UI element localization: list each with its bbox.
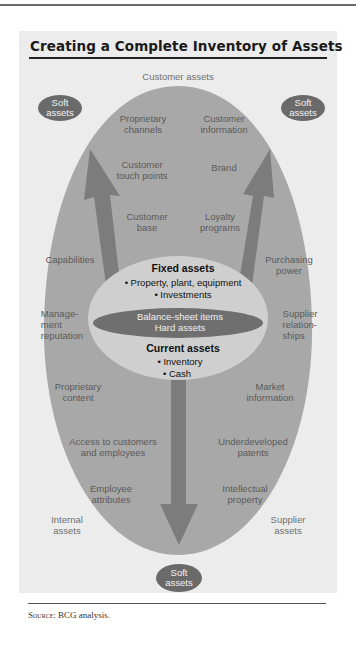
item-customer-touch-points: Customer touch points xyxy=(116,159,167,181)
line: patents xyxy=(218,447,288,458)
item-brand: Brand xyxy=(211,162,236,173)
line: Capabilities xyxy=(45,254,94,265)
line: Loyalty xyxy=(200,211,240,222)
source-rule xyxy=(28,603,326,604)
item-customer-base: Customer base xyxy=(126,211,167,233)
item-supplier-relationships: Supplier relation- ships xyxy=(283,308,318,341)
line: information xyxy=(201,124,248,135)
line: and employees xyxy=(69,447,157,458)
supplier-assets-line1: Supplier xyxy=(271,514,306,525)
line: base xyxy=(126,222,167,233)
line: power xyxy=(265,265,313,276)
supplier-assets-line2: assets xyxy=(271,525,306,536)
item-loyalty-programs: Loyalty programs xyxy=(200,211,240,233)
current-assets-title: Current assets xyxy=(146,342,220,354)
line: ment xyxy=(41,319,83,330)
line: Employee xyxy=(90,483,132,494)
line: relation- xyxy=(283,319,318,330)
line: Brand xyxy=(211,162,236,173)
current-asset-item: • Cash xyxy=(163,368,191,379)
source-text: BCG analysis. xyxy=(58,610,110,620)
source-prefix: Source: xyxy=(28,610,56,620)
line: Proprietary xyxy=(120,113,166,124)
customer-assets-label: Customer assets xyxy=(142,71,213,82)
line: reputation xyxy=(41,330,83,341)
line: information xyxy=(247,392,294,403)
fixed-asset-item: • Investments xyxy=(154,289,211,300)
line: Purchasing xyxy=(265,254,313,265)
line: Intellectual xyxy=(222,483,267,494)
line: property xyxy=(222,494,267,505)
item-capabilities: Capabilities xyxy=(45,254,94,265)
line: Underdeveloped xyxy=(218,436,288,447)
supplier-assets-label: Supplier assets xyxy=(271,514,306,536)
item-proprietary-channels: Proprietary channels xyxy=(120,113,166,135)
line: Customer xyxy=(126,211,167,222)
fixed-assets-title: Fixed assets xyxy=(151,262,214,274)
soft-assets-right-label: Soft assets xyxy=(289,98,316,118)
line: channels xyxy=(120,124,166,135)
item-purchasing-power: Purchasing power xyxy=(265,254,313,276)
item-customer-information: Customer information xyxy=(201,113,248,135)
current-asset-item: • Inventory xyxy=(157,356,202,367)
soft-assets-line2: assets xyxy=(289,108,316,118)
item-access-customers-employees: Access to customers and employees xyxy=(69,436,157,458)
line: Customer xyxy=(116,159,167,170)
soft-assets-line2: assets xyxy=(46,108,73,118)
item-underdeveloped-patents: Underdeveloped patents xyxy=(218,436,288,458)
item-management-reputation: Manage- ment reputation xyxy=(41,308,83,341)
line: Market xyxy=(247,381,294,392)
line: ships xyxy=(283,330,318,341)
soft-assets-bottom-label: Soft assets xyxy=(165,568,192,588)
internal-assets-label: Internal assets xyxy=(51,514,83,536)
line: Manage- xyxy=(41,308,83,319)
item-employee-attributes: Employee attributes xyxy=(90,483,132,505)
soft-assets-line2: assets xyxy=(165,578,192,588)
line: touch points xyxy=(116,170,167,181)
line: Access to customers xyxy=(69,436,157,447)
internal-assets-line2: assets xyxy=(51,525,83,536)
item-intellectual-property: Intellectual property xyxy=(222,483,267,505)
balance-sheet-label: Balance-sheet items xyxy=(137,311,223,322)
line: Proprietary xyxy=(55,381,101,392)
line: attributes xyxy=(90,494,132,505)
item-proprietary-content: Proprietary content xyxy=(55,381,101,403)
line: Customer xyxy=(201,113,248,124)
hard-assets-label: Hard assets xyxy=(155,322,206,333)
internal-assets-line1: Internal xyxy=(51,514,83,525)
item-market-information: Market information xyxy=(247,381,294,403)
line: content xyxy=(55,392,101,403)
line: Supplier xyxy=(283,308,318,319)
source-note: Source: BCG analysis. xyxy=(28,610,110,620)
line: programs xyxy=(200,222,240,233)
soft-assets-left-label: Soft assets xyxy=(46,98,73,118)
fixed-asset-item: • Property, plant, equipment xyxy=(125,277,242,288)
